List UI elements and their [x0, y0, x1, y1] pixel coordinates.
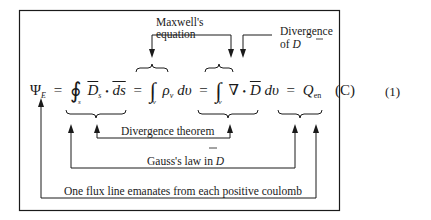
equals-sign: = — [199, 82, 207, 98]
flux-density-vector: D — [87, 82, 98, 98]
divergence-of-text: of — [280, 38, 290, 50]
divergence-label-line1: Divergence — [280, 25, 333, 37]
volume-element: dυ — [177, 82, 191, 98]
enclosed-charge: Q — [303, 82, 314, 98]
flux-line-label: One flux line emanates from each positiv… — [64, 185, 302, 197]
psi-symbol: Ψ — [30, 82, 41, 98]
nabla-operator: ∇ — [228, 82, 238, 98]
divergence-label-line2: of D — [280, 38, 301, 50]
brace-over-nabla-integral — [205, 64, 233, 72]
brace-under-nabla-integral — [198, 110, 258, 118]
gauss-law-equation: ΨE = ∮s Ds • ds = ∫v ρv dυ = ∫v ∇ • D dυ… — [30, 75, 355, 101]
equals-sign: = — [287, 82, 295, 98]
divergence-theorem-label: Divergence theorem — [121, 125, 214, 137]
maxwell-label-line1: Maxwell's — [156, 16, 203, 28]
equals-sign: = — [54, 82, 62, 98]
surface-element: ds — [112, 82, 125, 98]
charge-density-subscript: v — [170, 91, 174, 100]
dot-product: • — [105, 86, 109, 97]
brace-under-charge — [278, 110, 322, 118]
enclosed-charge-subscript: en — [314, 91, 322, 100]
volume-limit: v — [153, 98, 156, 106]
dot-product: • — [243, 86, 247, 97]
equation-number: (1) — [385, 84, 400, 100]
divergence-connector — [243, 35, 272, 49]
flux-density-vector: D — [250, 82, 261, 98]
unit-label: (C) — [335, 82, 355, 98]
volume-element: dυ — [264, 82, 278, 98]
gauss-law-diagram: Maxwell's equation Divergence of D Diver… — [0, 0, 431, 220]
psi-subscript: E — [41, 91, 46, 100]
equals-sign: = — [134, 82, 142, 98]
gauss-law-text: Gauss's law in — [147, 155, 213, 167]
gauss-law-d-symbol: D — [216, 155, 224, 167]
maxwell-label-line2: equation — [156, 28, 196, 40]
divergence-d-symbol: D — [292, 38, 300, 50]
volume-limit: v — [219, 98, 222, 106]
gauss-law-label: Gauss's law in D — [147, 155, 224, 167]
charge-density: ρ — [163, 82, 170, 98]
flux-density-subscript: s — [98, 91, 101, 100]
brace-under-closed-integral — [66, 110, 126, 118]
brace-over-rho-integral — [136, 64, 168, 72]
surface-limit: s — [78, 98, 81, 106]
